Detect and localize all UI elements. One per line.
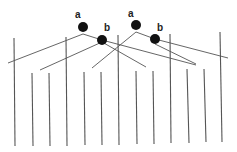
- vertical-line: [153, 71, 154, 144]
- vertical-line: [136, 71, 137, 144]
- connector-a2: [92, 32, 228, 68]
- node-a2: [131, 20, 141, 30]
- vertical-line: [101, 72, 102, 145]
- vertical-line: [32, 73, 33, 146]
- tall-vertical-lines: [14, 32, 222, 146]
- diagram-canvas: a b a b: [0, 0, 237, 152]
- connector-b1-left: [40, 42, 102, 70]
- node-b1: [97, 35, 107, 45]
- vertical-line: [49, 73, 50, 146]
- nodes: [78, 20, 160, 45]
- label-a2: a: [128, 8, 134, 19]
- connector-b2-right: [155, 44, 196, 64]
- label-a1: a: [75, 9, 81, 20]
- vertical-line: [187, 69, 189, 143]
- vertical-line: [14, 38, 15, 146]
- vertical-line: [170, 34, 171, 143]
- node-a1: [78, 22, 88, 32]
- node-b2: [150, 34, 160, 44]
- label-b1: b: [104, 22, 110, 33]
- vertical-line: [204, 69, 206, 142]
- vertical-line: [84, 72, 85, 145]
- vertical-line: [220, 32, 222, 142]
- vertical-line: [66, 37, 67, 146]
- label-b2: b: [157, 22, 163, 33]
